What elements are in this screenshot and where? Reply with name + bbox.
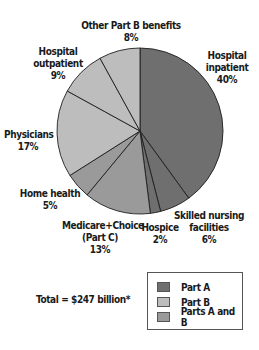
label-skilled-nursing: Skilled nursing facilities 6% bbox=[174, 210, 244, 246]
label-physicians: Physicians 17% bbox=[4, 129, 52, 153]
legend-label: Parts A and B bbox=[181, 306, 242, 328]
swatch-parts-ab bbox=[157, 312, 170, 322]
swatch-part-b bbox=[157, 297, 170, 307]
legend: Part A Part B Parts A and B bbox=[147, 272, 243, 330]
label-medicare-choice: Medicare+Choice (Part C) 13% bbox=[62, 220, 138, 256]
label-other-part-b: Other Part B benefits 8% bbox=[78, 20, 184, 44]
legend-item-parts-ab: Parts A and B bbox=[157, 311, 242, 323]
swatch-part-a bbox=[157, 282, 170, 292]
legend-label: Part A bbox=[181, 282, 210, 293]
label-home-health: Home health 5% bbox=[16, 188, 84, 212]
label-hospital-inpatient: Hospital inpatient 40% bbox=[200, 50, 254, 86]
legend-item-part-a: Part A bbox=[157, 281, 210, 293]
label-hospital-outpatient: Hospital outpatient 9% bbox=[30, 46, 86, 82]
total-annotation: Total = $247 billion* bbox=[36, 294, 130, 305]
